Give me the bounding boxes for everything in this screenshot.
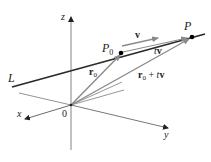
vector-tv-label: tv bbox=[154, 45, 162, 56]
point-p-label: P bbox=[183, 19, 192, 33]
origin-label: 0 bbox=[62, 108, 67, 119]
x-axis-label: x bbox=[16, 108, 22, 119]
vector-r0-plus-tv-label: r0 + tv bbox=[138, 69, 164, 82]
vector-v-label: v bbox=[135, 29, 140, 40]
p0-sub: 0 bbox=[109, 48, 113, 57]
vector-r0 bbox=[71, 55, 120, 105]
r0tv-op: + bbox=[146, 69, 157, 80]
vector-v bbox=[122, 38, 158, 46]
line-in-space-diagram: z x y 0 L P0 P v tv r0 r0 + tv bbox=[0, 0, 211, 162]
point-p0 bbox=[119, 51, 124, 56]
y-axis-label: y bbox=[163, 129, 169, 140]
r0tv-v: v bbox=[159, 69, 164, 80]
vector-r0-label: r0 bbox=[89, 66, 97, 79]
point-p bbox=[190, 35, 195, 40]
point-p0-label: P0 bbox=[101, 41, 113, 57]
y-axis bbox=[71, 105, 168, 128]
tv-v: v bbox=[157, 45, 162, 56]
origin-point bbox=[70, 104, 73, 107]
line-L-label: L bbox=[7, 71, 15, 85]
z-axis-label: z bbox=[60, 11, 65, 22]
r0-sub: 0 bbox=[93, 71, 97, 79]
auxiliary-rays bbox=[71, 82, 124, 105]
